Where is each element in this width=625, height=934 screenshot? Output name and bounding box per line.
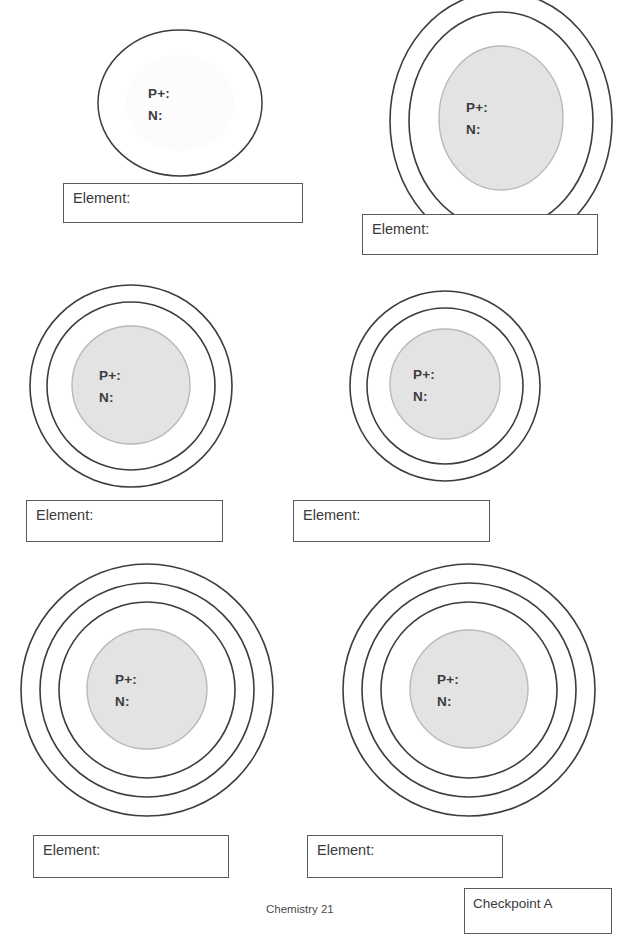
nucleus-ghost	[126, 55, 234, 151]
atom-diagram-4: P+: N:	[347, 288, 543, 484]
element-box-label-3: Element:	[36, 507, 93, 523]
element-box-label-4: Element:	[303, 507, 360, 523]
nucleus	[72, 326, 190, 444]
element-box-label-6: Element:	[317, 842, 374, 858]
atom-diagram-1: P+: N:	[96, 28, 264, 178]
element-box-5[interactable]: Element:	[33, 835, 229, 878]
nucleus	[410, 630, 528, 748]
atom-diagram-5: P+: N:	[15, 562, 279, 818]
element-box-label-5: Element:	[43, 842, 100, 858]
element-box-label-1: Element:	[73, 190, 130, 206]
nucleus	[390, 329, 500, 439]
element-box-2[interactable]: Element:	[362, 214, 598, 255]
footer-page-label: Chemistry 21	[266, 903, 334, 915]
element-box-1[interactable]: Element:	[63, 183, 303, 223]
checkpoint-box[interactable]: Checkpoint A	[464, 888, 612, 934]
element-box-4[interactable]: Element:	[293, 500, 490, 542]
nucleus	[87, 629, 207, 749]
atom-diagram-6: P+: N:	[340, 562, 598, 818]
element-box-6[interactable]: Element:	[307, 835, 503, 878]
element-box-3[interactable]: Element:	[26, 500, 223, 542]
nucleus	[439, 46, 563, 190]
element-box-label-2: Element:	[372, 221, 429, 237]
checkpoint-label: Checkpoint A	[473, 896, 553, 911]
atom-diagram-3: P+: N:	[27, 283, 235, 489]
